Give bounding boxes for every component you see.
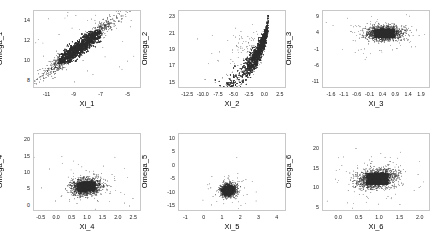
x-tick-label: -11 <box>34 91 60 97</box>
plot-area-5 <box>178 133 286 211</box>
y-tick-label: 20 <box>297 145 319 151</box>
y-tick-label: 15 <box>297 165 319 171</box>
y-tick-label: 19 <box>153 46 175 52</box>
y-tick-label: -11 <box>297 78 319 84</box>
scatter-points-4 <box>34 134 141 211</box>
x-axis-label-2: Xi_2 <box>197 99 267 108</box>
x-tick-label: 1.9 <box>408 91 434 97</box>
y-tick-label: 10 <box>8 57 30 63</box>
x-tick-label: -9 <box>61 91 87 97</box>
y-axis-label-4: Omega_4 <box>0 142 4 202</box>
x-axis-label-4: Xi_4 <box>52 222 122 231</box>
x-tick-label: 2.5 <box>120 214 146 220</box>
y-tick-label: 5 <box>297 204 319 210</box>
y-tick-label: -6 <box>297 62 319 68</box>
y-axis-label-3: Omega_3 <box>284 19 293 79</box>
x-axis-label-5: Xi_5 <box>197 222 267 231</box>
plot-area-4 <box>33 133 141 211</box>
y-tick-label: 9 <box>297 13 319 19</box>
x-tick-label: 2.0 <box>407 214 433 220</box>
y-tick-label: 20 <box>8 136 30 142</box>
plot-area-3 <box>322 10 430 88</box>
y-tick-label: 15 <box>8 153 30 159</box>
y-tick-label: 0 <box>8 202 30 208</box>
y-tick-label: 10 <box>8 169 30 175</box>
y-tick-label: 5 <box>8 185 30 191</box>
scatter-points-2 <box>179 11 286 88</box>
y-tick-label: 15 <box>153 79 175 85</box>
x-axis-label-6: Xi_6 <box>341 222 411 231</box>
x-tick-label: 2.5 <box>267 91 293 97</box>
y-axis-label-1: Omega_1 <box>0 19 4 79</box>
scatter-points-5 <box>179 134 286 211</box>
y-tick-label: -10 <box>153 189 175 195</box>
x-axis-label-1: Xi_1 <box>52 99 122 108</box>
y-tick-label: 17 <box>153 62 175 68</box>
y-tick-label: 8 <box>8 77 30 83</box>
y-axis-label-6: Omega_6 <box>284 142 293 202</box>
y-tick-label: 10 <box>297 184 319 190</box>
y-tick-label: 0 <box>153 162 175 168</box>
y-tick-label: 21 <box>153 30 175 36</box>
y-tick-label: 5 <box>153 148 175 154</box>
y-tick-label: 23 <box>153 13 175 19</box>
y-tick-label: -15 <box>153 202 175 208</box>
y-tick-label: -5 <box>153 175 175 181</box>
x-axis-label-3: Xi_3 <box>341 99 411 108</box>
scatter-plot-grid: 8101214-11-9-7-5Xi_1Omega_11517192123-12… <box>0 0 443 246</box>
x-tick-label: 4 <box>264 214 290 220</box>
scatter-points-6 <box>323 134 430 211</box>
plot-area-1 <box>33 10 141 88</box>
x-tick-label: -5 <box>115 91 141 97</box>
y-tick-label: 12 <box>8 37 30 43</box>
y-tick-label: 4 <box>297 29 319 35</box>
scatter-points-1 <box>34 11 141 88</box>
x-tick-label: -7 <box>88 91 114 97</box>
plot-area-2 <box>178 10 286 88</box>
y-tick-label: 14 <box>8 17 30 23</box>
y-axis-label-5: Omega_5 <box>140 142 149 202</box>
y-tick-label: 10 <box>153 135 175 141</box>
y-axis-label-2: Omega_2 <box>140 19 149 79</box>
scatter-points-3 <box>323 11 430 88</box>
y-tick-label: -1 <box>297 46 319 52</box>
plot-area-6 <box>322 133 430 211</box>
